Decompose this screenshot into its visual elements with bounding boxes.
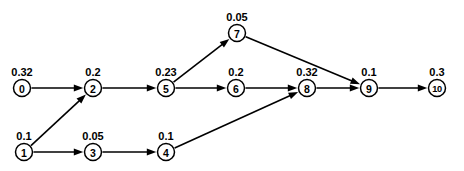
node-8-weight: 0.32	[296, 66, 317, 78]
graph-canvas: 012345678910 0.320.10.20.050.10.230.20.0…	[0, 0, 464, 171]
node-9-weight: 0.1	[361, 66, 376, 78]
node-0[interactable]: 0	[14, 80, 31, 97]
nodes-layer: 012345678910	[14, 25, 446, 161]
node-0-label: 0	[19, 83, 25, 95]
edge-9-10-arrowhead-icon	[418, 85, 428, 92]
node-2-weight: 0.2	[85, 66, 100, 78]
node-10[interactable]: 10	[429, 80, 446, 97]
edge-1-3-arrowhead-icon	[74, 149, 84, 156]
node-3-label: 3	[90, 147, 96, 159]
edge-1-2-line	[31, 100, 80, 145]
graph-diagram: 012345678910 0.320.10.20.050.10.230.20.0…	[0, 0, 464, 171]
node-5-label: 5	[163, 83, 169, 95]
node-5-weight: 0.23	[155, 66, 176, 78]
node-9-label: 9	[366, 83, 372, 95]
edge-8-9	[317, 85, 360, 92]
edge-5-6	[176, 85, 227, 92]
edge-7-9-arrowhead-icon	[350, 77, 360, 84]
node-2-label: 2	[90, 83, 96, 95]
node-3[interactable]: 3	[85, 144, 102, 161]
edge-9-10	[379, 85, 428, 92]
node-10-weight: 0.3	[429, 66, 444, 78]
node-2[interactable]: 2	[85, 80, 102, 97]
edge-4-8-line	[175, 95, 291, 148]
node-8-label: 8	[304, 83, 310, 95]
node-5[interactable]: 5	[158, 80, 175, 97]
node-6-label: 6	[233, 83, 239, 95]
edge-2-5	[103, 85, 157, 92]
node-4-weight: 0.1	[158, 130, 173, 142]
edge-3-4-arrowhead-icon	[147, 149, 157, 156]
edge-3-4	[103, 149, 157, 156]
node-4[interactable]: 4	[158, 144, 175, 161]
weights-layer: 0.320.10.20.050.10.230.20.050.320.10.3	[11, 11, 444, 142]
edge-4-8	[175, 92, 299, 148]
edge-5-7-line	[174, 44, 224, 82]
node-0-weight: 0.32	[11, 66, 32, 78]
node-6[interactable]: 6	[228, 80, 245, 97]
edge-1-3	[34, 149, 84, 156]
edge-0-2	[32, 85, 84, 92]
edge-8-9-arrowhead-icon	[350, 85, 360, 92]
edge-6-8	[246, 85, 298, 92]
node-8[interactable]: 8	[299, 80, 316, 97]
node-9[interactable]: 9	[361, 80, 378, 97]
node-10-label: 10	[432, 84, 442, 94]
edge-4-8-arrowhead-icon	[288, 92, 298, 99]
edge-6-8-arrowhead-icon	[288, 85, 298, 92]
edge-5-6-arrowhead-icon	[217, 85, 227, 92]
node-1-label: 1	[21, 147, 27, 159]
edge-0-2-arrowhead-icon	[74, 85, 84, 92]
node-4-label: 4	[163, 147, 169, 159]
node-7-label: 7	[234, 28, 240, 40]
edge-1-2	[31, 95, 86, 146]
edge-2-5-arrowhead-icon	[147, 85, 157, 92]
node-7-weight: 0.05	[226, 11, 247, 23]
node-1[interactable]: 1	[16, 144, 33, 161]
node-3-weight: 0.05	[82, 130, 103, 142]
node-7[interactable]: 7	[229, 25, 246, 42]
node-6-weight: 0.2	[228, 66, 243, 78]
node-1-weight: 0.1	[16, 130, 31, 142]
edge-5-7	[174, 39, 230, 82]
